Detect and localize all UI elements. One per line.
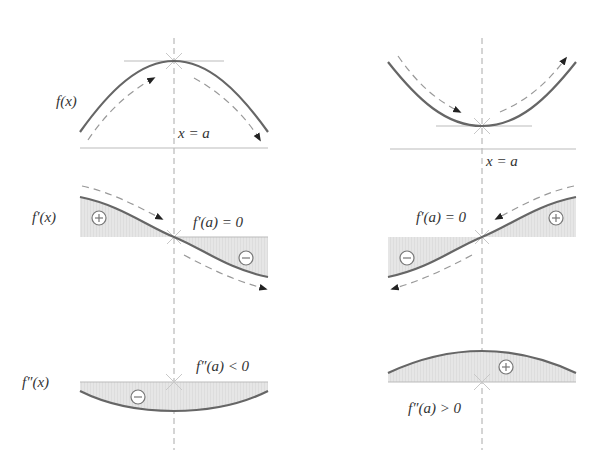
left-f-label: f(x) xyxy=(56,93,77,110)
left-fprime-panel: f′(x) f′(a) = 0 xyxy=(32,186,268,289)
left-fdoubleprime-panel: f″(x) f″(a) < 0 xyxy=(22,358,268,411)
left-x-equals-a-label: x = a xyxy=(177,125,210,141)
left-fprime-condition: f′(a) = 0 xyxy=(193,214,244,231)
right-fprime-plus-sign xyxy=(549,211,563,225)
right-fprime-minus-sign xyxy=(400,251,414,265)
left-fprime-minus-sign xyxy=(239,251,253,265)
left-fdoubleprime-minus-sign xyxy=(131,390,145,404)
left-fprime-label: f′(x) xyxy=(32,209,56,226)
left-fdoubleprime-negative-area xyxy=(80,382,268,411)
right-fprime-condition: f′(a) = 0 xyxy=(416,209,467,226)
left-fdoubleprime-label: f″(x) xyxy=(22,374,49,391)
derivative-test-diagram: f(x) x = a f′(x) f′(a) = 0 xyxy=(0,0,610,463)
left-f-panel: f(x) x = a xyxy=(56,53,268,148)
right-fdoubleprime-condition: f″(a) > 0 xyxy=(408,400,462,417)
right-x-equals-a-label: x = a xyxy=(485,153,518,169)
right-fdoubleprime-plus-sign xyxy=(499,360,513,374)
left-fprime-plus-sign xyxy=(92,211,106,225)
right-fdoubleprime-positive-area xyxy=(388,351,576,382)
left-fdoubleprime-condition: f″(a) < 0 xyxy=(196,358,250,375)
